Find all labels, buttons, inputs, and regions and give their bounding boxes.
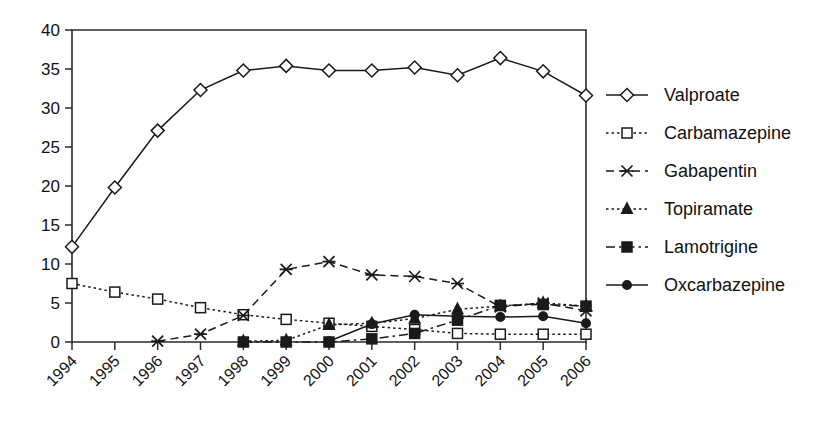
data-point-marker	[194, 329, 207, 340]
chart-container: 0510152025303540 19941995199619971998199…	[0, 0, 819, 421]
data-point-marker	[153, 294, 163, 304]
data-point-marker	[453, 328, 463, 338]
x-tick-label: 1997	[171, 352, 208, 389]
y-tick-label: 30	[41, 99, 60, 118]
series-carbamazepine	[67, 279, 591, 340]
x-axis: 1994199519961997199819992000200120022003…	[43, 342, 594, 389]
data-point-marker	[582, 319, 591, 328]
series-valproate	[66, 52, 593, 254]
y-tick-label: 15	[41, 216, 60, 235]
legend-item-carbamazepine[interactable]: Carbamazepine	[606, 123, 791, 143]
x-tick-label: 2005	[514, 352, 551, 389]
data-point-marker	[66, 240, 79, 253]
y-tick-label: 35	[41, 60, 60, 79]
x-tick-label: 1998	[214, 352, 251, 389]
legend-item-label: Oxcarbazepine	[664, 275, 785, 295]
legend-item-oxcarbazepine[interactable]: Oxcarbazepine	[606, 275, 785, 295]
y-tick-label: 0	[51, 333, 60, 352]
x-tick-label: 1994	[43, 352, 80, 389]
x-tick-label: 1995	[86, 352, 123, 389]
x-tick-label: 1996	[129, 352, 166, 389]
data-point-marker	[237, 64, 250, 77]
data-point-marker	[410, 328, 420, 338]
data-point-marker	[196, 303, 206, 313]
data-point-marker	[623, 281, 632, 290]
data-point-marker	[408, 271, 421, 282]
legend-item-label: Topiramate	[664, 199, 753, 219]
data-point-marker	[110, 287, 120, 297]
data-point-marker	[580, 89, 593, 102]
data-point-marker	[622, 128, 632, 138]
series-line	[72, 58, 586, 247]
data-point-marker	[622, 242, 632, 252]
data-point-marker	[451, 69, 464, 82]
data-point-marker	[365, 64, 378, 77]
data-point-marker	[495, 329, 505, 339]
data-point-marker	[581, 301, 591, 311]
data-point-marker	[538, 300, 548, 310]
data-point-marker	[494, 52, 507, 65]
data-point-marker	[495, 300, 505, 310]
legend-item-valproate[interactable]: Valproate	[606, 85, 740, 105]
data-point-marker	[453, 312, 462, 321]
x-tick-label: 2001	[343, 352, 380, 389]
legend-item-label: Valproate	[664, 85, 740, 105]
legend-item-label: Gabapentin	[664, 161, 757, 181]
data-point-marker	[67, 279, 77, 289]
data-point-marker	[281, 314, 291, 324]
x-tick-label: 1999	[257, 352, 294, 389]
chart-legend: ValproateCarbamazepineGabapentinTopirama…	[606, 85, 791, 295]
series-layer	[66, 52, 593, 347]
data-point-marker	[451, 278, 464, 289]
data-point-marker	[622, 203, 633, 213]
data-point-marker	[410, 310, 419, 319]
data-point-marker	[496, 313, 505, 322]
x-tick-label: 2006	[557, 352, 594, 389]
x-tick-label: 2000	[300, 352, 337, 389]
data-point-marker	[539, 312, 548, 321]
data-point-marker	[365, 269, 378, 280]
data-point-marker	[368, 320, 377, 329]
y-tick-label: 20	[41, 177, 60, 196]
data-point-marker	[621, 166, 634, 177]
data-point-marker	[323, 256, 336, 267]
x-tick-label: 2003	[428, 352, 465, 389]
data-point-marker	[621, 89, 634, 102]
legend-item-gabapentin[interactable]: Gabapentin	[606, 161, 757, 181]
data-point-marker	[281, 337, 291, 347]
y-tick-label: 10	[41, 255, 60, 274]
y-tick-label: 40	[41, 21, 60, 40]
data-point-marker	[367, 334, 377, 344]
data-point-marker	[581, 329, 591, 339]
line-chart: 0510152025303540 19941995199619971998199…	[0, 0, 819, 421]
legend-item-label: Lamotrigine	[664, 237, 758, 257]
data-point-marker	[538, 329, 548, 339]
data-point-marker	[238, 337, 248, 347]
data-point-marker	[280, 264, 293, 275]
data-point-marker	[325, 337, 334, 346]
legend-item-lamotrigine[interactable]: Lamotrigine	[606, 237, 758, 257]
y-axis: 0510152025303540	[41, 21, 72, 352]
data-point-marker	[408, 61, 421, 74]
x-tick-label: 2004	[471, 352, 508, 389]
x-tick-label: 2002	[386, 352, 423, 389]
data-point-marker	[280, 59, 293, 72]
data-point-marker	[108, 181, 121, 194]
y-tick-label: 25	[41, 138, 60, 157]
legend-item-label: Carbamazepine	[664, 123, 791, 143]
data-point-marker	[537, 65, 550, 78]
legend-item-topiramate[interactable]: Topiramate	[606, 199, 753, 219]
y-tick-label: 5	[51, 294, 60, 313]
data-point-marker	[323, 64, 336, 77]
